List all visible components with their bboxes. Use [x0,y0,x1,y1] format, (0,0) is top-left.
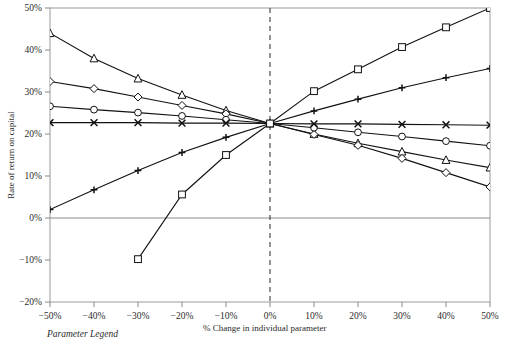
series-plus-marker [47,206,54,213]
series-plus-marker [487,65,494,72]
series-diamond-marker [442,169,450,177]
series-circle-marker [179,113,186,120]
series-square-marker [311,88,318,95]
series-circle-marker [355,129,362,136]
x-axis-title: % Change in individual parameter [203,323,326,333]
series-plus-marker [91,186,98,193]
series-triangle-marker [134,74,142,82]
series-circle-marker [399,133,406,140]
series-diamond-marker [486,183,494,191]
chart-footer: Parameter Legend % Change in individual … [0,320,511,350]
series-diamond-marker [90,85,98,93]
series-square-marker [487,5,494,12]
series-square-marker [355,66,362,73]
series-triangle-marker [46,29,54,37]
series-diamond-marker [134,93,142,101]
series-plus-marker [311,108,318,115]
series-plus-marker [399,84,406,91]
series-diamond-marker [398,154,406,162]
series-circle-marker [91,106,98,113]
series-circle-marker [487,142,494,149]
series-plus-marker [135,167,142,174]
y-tick-label: 50% [25,3,43,13]
series-circle-marker [47,103,54,110]
series-square-marker [267,120,274,127]
series-plus-marker [443,74,450,81]
series-square-marker [135,256,142,263]
series-square-marker [443,24,450,31]
series-square-marker [399,44,406,51]
y-tick-label: 30% [25,87,43,97]
series-plus-marker [179,149,186,156]
chart-root: Rate of return on capital50%40%30%20%10%… [0,0,511,350]
series-triangle-marker [90,54,98,62]
sensitivity-chart: Rate of return on capital50%40%30%20%10%… [0,0,511,350]
y-axis-title: Rate of return on capital [6,111,16,199]
series-circle-marker [135,109,142,116]
series-diamond-marker [178,101,186,109]
series-triangle-marker [178,91,186,99]
y-tick-label: 0% [29,213,42,223]
y-tick-label: −20% [19,297,42,307]
y-tick-label: 10% [25,171,43,181]
legend-caption: Parameter Legend [46,329,118,339]
series-diamond-marker [46,78,54,86]
series-plus-marker [223,134,230,141]
series-plus-marker [355,96,362,103]
series-square-marker [179,191,186,198]
series-square-marker [223,152,230,159]
y-tick-label: 20% [25,129,43,139]
y-tick-label: −10% [19,255,42,265]
y-tick-label: 40% [25,45,43,55]
series-circle-marker [443,138,450,145]
